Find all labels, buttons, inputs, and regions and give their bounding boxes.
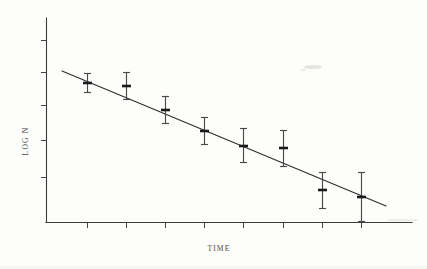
figure-container: LOG N TIME: [0, 0, 427, 269]
data-point-2: [122, 72, 131, 100]
data-point-1: [83, 73, 92, 93]
data-series: [83, 72, 366, 222]
data-point-4: [200, 117, 209, 145]
y-axis-ticks: [41, 41, 46, 178]
axis-group: [46, 18, 412, 223]
plot-canvas: LOG N TIME: [0, 0, 427, 269]
y-axis-title: LOG N: [21, 127, 30, 156]
data-point-8: [357, 172, 366, 222]
x-axis-title: TIME: [207, 244, 230, 253]
scan-artifacts: [0, 65, 427, 269]
data-point-7: [318, 172, 327, 209]
data-point-3: [161, 96, 170, 124]
data-point-5: [239, 128, 248, 163]
regression-line: [62, 71, 386, 206]
